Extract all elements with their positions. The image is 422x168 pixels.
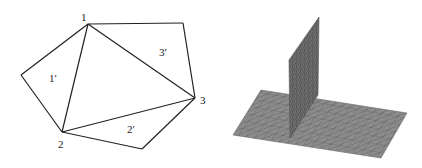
figure: 1231′2′3′: [0, 0, 422, 168]
mesh-plane: [233, 90, 407, 158]
mesh-spike-plot: [0, 0, 422, 168]
